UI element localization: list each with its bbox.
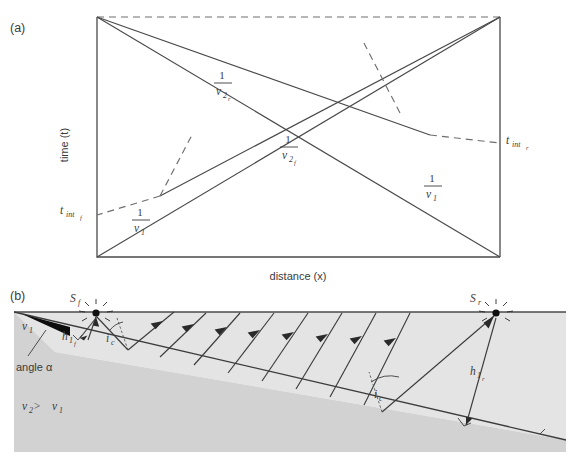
- svg-text:c: c: [111, 338, 115, 347]
- svg-text:1: 1: [477, 371, 481, 380]
- svg-text:1: 1: [285, 133, 291, 145]
- x-axis-label: distance (x): [270, 270, 327, 282]
- svg-text:v: v: [134, 222, 140, 234]
- panel-b-tag: (b): [10, 289, 25, 303]
- svg-text:1: 1: [69, 336, 73, 345]
- source-forward-dot: [92, 309, 99, 316]
- svg-text:v: v: [22, 400, 28, 412]
- reverse-direct-dashed-extension: [364, 43, 400, 113]
- svg-text:int: int: [512, 140, 521, 149]
- label-slope-reverse-v1: 1 v 1: [424, 172, 442, 203]
- svg-text:v: v: [216, 85, 222, 97]
- svg-text:1: 1: [141, 228, 145, 237]
- svg-text:i: i: [374, 388, 377, 400]
- label-slope-reverse-v2: 1 v 2 r: [214, 69, 232, 102]
- svg-text:t: t: [506, 134, 510, 146]
- source-reverse-dot: [492, 309, 499, 316]
- forward-direct-dashed-extension: [160, 133, 193, 196]
- svg-text:1: 1: [29, 326, 33, 335]
- svg-text:S: S: [470, 292, 476, 304]
- svg-text:2: 2: [223, 91, 227, 100]
- label-intercept-forward: t int f: [60, 204, 83, 221]
- svg-text:r: r: [478, 298, 482, 307]
- svg-text:>: >: [33, 400, 41, 412]
- svg-text:i: i: [106, 332, 109, 344]
- svg-text:1: 1: [137, 206, 143, 218]
- label-source-forward: S f: [70, 292, 82, 307]
- label-slope-forward-v1: 1 v 1: [132, 206, 150, 237]
- label-slope-forward-v2: 1 v 2 f: [280, 133, 298, 166]
- panel-a-traveltime-graph: (a) 1 v 2 r 1: [10, 17, 529, 282]
- forward-intercept-projection: [97, 196, 160, 215]
- svg-text:int: int: [66, 210, 75, 219]
- y-axis-label: time (t): [58, 128, 70, 162]
- svg-text:1: 1: [429, 172, 435, 184]
- svg-text:v: v: [52, 400, 58, 412]
- svg-text:c: c: [379, 394, 383, 403]
- svg-text:1: 1: [433, 194, 437, 203]
- svg-text:f: f: [80, 214, 83, 221]
- reverse-intercept-projection: [430, 135, 500, 143]
- svg-text:2: 2: [289, 155, 293, 164]
- svg-text:v: v: [22, 320, 28, 332]
- panel-a-tag: (a): [10, 21, 25, 35]
- svg-text:t: t: [60, 204, 64, 216]
- svg-text:v: v: [426, 188, 432, 200]
- svg-text:f: f: [78, 298, 82, 307]
- svg-text:f: f: [294, 159, 297, 166]
- reverse-refracted-branch: [97, 17, 430, 135]
- svg-text:r: r: [526, 144, 529, 151]
- svg-text:S: S: [70, 292, 76, 304]
- forward-refracted-branch: [160, 17, 500, 196]
- svg-text:h: h: [62, 330, 68, 342]
- label-source-reverse: S r: [470, 292, 482, 307]
- panel-b-cross-section: (b) angle α v 1 v 2 > v 1: [10, 289, 566, 452]
- svg-text:v: v: [282, 149, 288, 161]
- seismic-refraction-figure: (a) 1 v 2 r 1: [0, 0, 574, 458]
- svg-text:1: 1: [59, 406, 63, 415]
- svg-text:1: 1: [219, 69, 225, 81]
- svg-text:h: h: [470, 365, 476, 377]
- dip-angle-label: angle α: [16, 361, 53, 373]
- label-intercept-reverse: t int r: [506, 134, 529, 151]
